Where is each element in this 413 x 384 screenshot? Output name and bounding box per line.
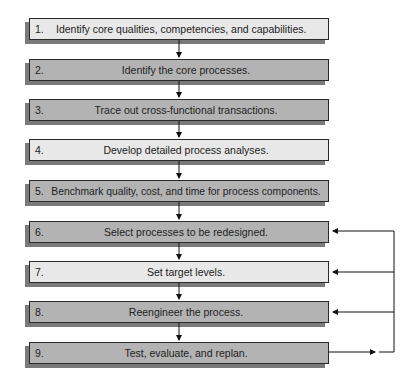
feedback-loop	[329, 231, 394, 352]
connector-arrows	[0, 0, 413, 384]
